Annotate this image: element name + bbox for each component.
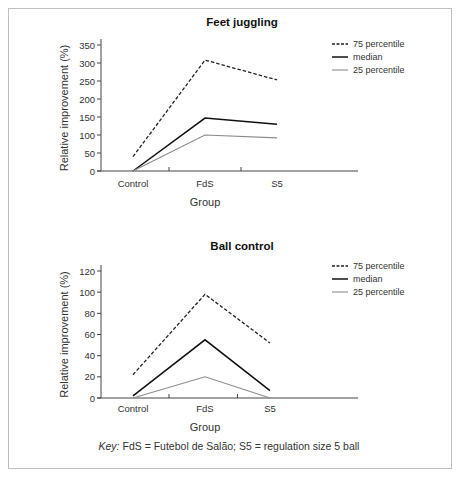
legend-label: 25 percentile xyxy=(353,287,405,297)
x-tick-label: S5 xyxy=(271,178,283,189)
x-tick-label: S5 xyxy=(264,403,276,414)
series-line xyxy=(133,118,277,171)
series-line xyxy=(133,135,277,171)
x-axis-label: Group xyxy=(190,421,221,433)
figure-key: Key: FdS = Futebol de Salão; S5 = regula… xyxy=(0,440,458,452)
y-tick-label: 350 xyxy=(79,40,95,51)
legend-label: median xyxy=(353,274,383,284)
series-line xyxy=(133,294,270,374)
y-tick-label: 120 xyxy=(79,266,95,277)
chart-title: Feet juggling xyxy=(206,16,278,28)
key-prefix: Key: xyxy=(99,440,120,452)
x-tick-label: FdS xyxy=(196,178,213,189)
y-tick-label: 0 xyxy=(90,393,95,404)
x-tick-label: Control xyxy=(118,403,149,414)
x-tick-label: FdS xyxy=(196,403,213,414)
x-axis-label: Group xyxy=(190,196,221,208)
y-axis-label: Relative improvement (%) xyxy=(58,45,70,172)
y-tick-label: 0 xyxy=(90,166,95,177)
y-tick-label: 80 xyxy=(84,308,95,319)
y-tick-label: 250 xyxy=(79,76,95,87)
legend-label: 25 percentile xyxy=(353,65,405,75)
y-tick-label: 100 xyxy=(79,130,95,141)
y-tick-label: 40 xyxy=(84,350,95,361)
series-line xyxy=(133,340,270,396)
chart-title: Ball control xyxy=(210,240,273,252)
y-tick-label: 20 xyxy=(84,371,95,382)
x-tick-label: Control xyxy=(118,178,149,189)
y-tick-label: 60 xyxy=(84,329,95,340)
key-text: FdS = Futebol de Salão; S5 = regulation … xyxy=(120,440,360,452)
series-line xyxy=(133,60,277,156)
legend-label: 75 percentile xyxy=(353,39,405,49)
y-tick-label: 200 xyxy=(79,94,95,105)
y-tick-label: 50 xyxy=(84,148,95,159)
y-axis-label: Relative improvement (%) xyxy=(58,271,70,398)
y-tick-label: 150 xyxy=(79,112,95,123)
y-tick-label: 100 xyxy=(79,287,95,298)
legend-label: 75 percentile xyxy=(353,261,405,271)
charts-canvas: Feet juggling050100150200250300350Contro… xyxy=(0,0,458,479)
y-tick-label: 300 xyxy=(79,58,95,69)
legend-label: median xyxy=(353,52,383,62)
